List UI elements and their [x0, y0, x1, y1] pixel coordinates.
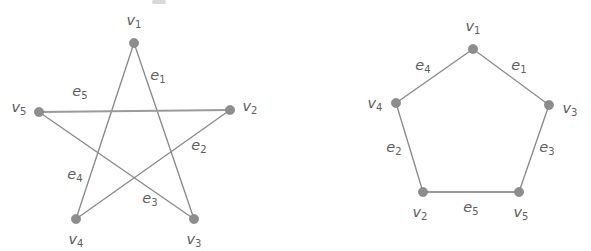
vertex-label-right-graph-v5: v5 — [514, 204, 529, 222]
vertex-label-right-graph-v3: v3 — [563, 100, 578, 118]
edge-label-right-graph-e3: e3 — [539, 139, 554, 157]
edge-label-left-graph-e4: e4 — [67, 166, 82, 184]
graph-vertex-right-graph-v5 — [514, 187, 523, 196]
edge-label-left-graph-e1: e1 — [150, 67, 165, 85]
graph-canvas: v1v2v3v4v5e1e2e3e4e5v1v3v5v2v4e1e2e3e4e5 — [0, 0, 591, 251]
graph-vertex-right-graph-v2 — [418, 187, 427, 196]
graph-vertex-right-graph-v4 — [391, 98, 400, 107]
graph-vertex-left-graph-v2 — [225, 105, 234, 114]
vertex-label-left-graph-v1: v1 — [127, 12, 142, 30]
graph-vertex-left-graph-v4 — [71, 214, 80, 223]
labels-layer: v1v2v3v4v5e1e2e3e4e5v1v3v5v2v4e1e2e3e4e5 — [12, 12, 578, 249]
edge-label-right-graph-e5: e5 — [463, 199, 478, 217]
vertex-label-right-graph-v1: v1 — [466, 18, 481, 36]
graph-edge-left-graph-e5 — [39, 110, 230, 112]
edge-label-right-graph-e2: e2 — [386, 139, 401, 157]
graph-vertex-left-graph-v3 — [189, 214, 198, 223]
vertex-label-right-graph-v4: v4 — [368, 95, 383, 113]
vertex-label-left-graph-v3: v3 — [187, 231, 202, 249]
vertex-label-right-graph-v2: v2 — [413, 204, 428, 222]
graph-vertex-right-graph-v3 — [544, 100, 553, 109]
figure-root: v1v2v3v4v5e1e2e3e4e5v1v3v5v2v4e1e2e3e4e5 — [0, 0, 591, 251]
graph-edge-right-graph-e4 — [396, 49, 473, 103]
edge-label-left-graph-e5: e5 — [72, 83, 87, 101]
graph-vertex-left-graph-v5 — [34, 107, 43, 116]
edge-label-right-graph-e4: e4 — [415, 57, 430, 75]
vertex-label-left-graph-v5: v5 — [12, 99, 27, 117]
edge-label-right-graph-e1: e1 — [511, 57, 526, 75]
vertex-label-left-graph-v2: v2 — [243, 98, 258, 116]
edges-layer — [39, 43, 549, 219]
graph-vertex-right-graph-v1 — [468, 44, 477, 53]
graph-vertex-left-graph-v1 — [129, 38, 138, 47]
graph-edge-left-graph-e3 — [76, 43, 134, 219]
edge-label-left-graph-e2: e2 — [191, 137, 206, 155]
vertex-label-left-graph-v4: v4 — [69, 231, 84, 249]
vertices-layer — [34, 38, 553, 223]
graph-edge-left-graph-e4 — [39, 112, 194, 219]
